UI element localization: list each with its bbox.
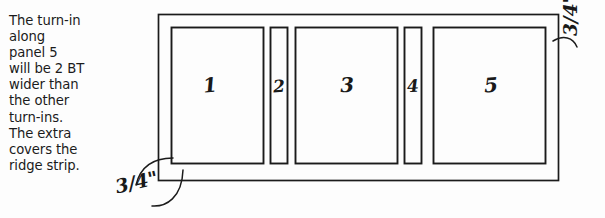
panel-label-1: 1 <box>202 72 218 97</box>
diagram-page: The turn-in along panel 5 will be 2 BT w… <box>0 0 605 218</box>
panel-layout-drawing <box>0 0 605 218</box>
outer-boundary-rect <box>159 15 559 181</box>
panel-label-5: 5 <box>483 73 499 98</box>
dimension-label-right: 3/4" + 2 BT <box>560 0 581 36</box>
panel-label-2: 2 <box>272 76 285 97</box>
panel-label-3: 3 <box>339 73 354 98</box>
leader-line-right-wall <box>553 38 577 47</box>
panel-label-4: 4 <box>406 76 419 97</box>
